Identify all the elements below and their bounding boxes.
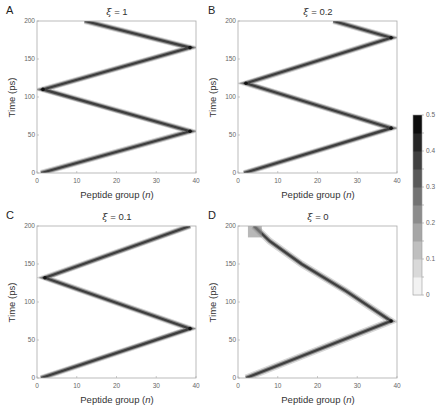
svg-text:30: 30: [153, 382, 161, 389]
svg-text:20: 20: [314, 382, 322, 389]
svg-text:100: 100: [24, 93, 35, 100]
svg-text:10: 10: [274, 177, 282, 184]
svg-text:40: 40: [192, 177, 200, 184]
x-axis-label-b: Peptide group (n): [238, 189, 398, 200]
svg-text:0.3: 0.3: [426, 183, 435, 190]
svg-text:50: 50: [229, 131, 237, 138]
svg-text:0: 0: [426, 291, 430, 298]
y-axis-label-c: Time (ps): [6, 273, 17, 333]
x-axis-label-d: Peptide group (n): [238, 394, 398, 405]
colorbar: 00.10.20.30.40.5: [408, 110, 440, 302]
panel-letter-c: C: [6, 209, 14, 221]
svg-text:0.2: 0.2: [426, 219, 435, 226]
plot-a: 010203040050100150200: [20, 14, 205, 189]
svg-text:50: 50: [28, 131, 36, 138]
svg-text:0: 0: [232, 374, 236, 381]
svg-text:20: 20: [314, 177, 322, 184]
svg-text:30: 30: [354, 177, 362, 184]
svg-text:0: 0: [35, 382, 39, 389]
svg-text:0: 0: [31, 374, 35, 381]
svg-text:100: 100: [24, 298, 35, 305]
svg-text:200: 200: [24, 222, 35, 229]
svg-text:30: 30: [354, 382, 362, 389]
svg-text:200: 200: [225, 222, 236, 229]
svg-text:0: 0: [35, 177, 39, 184]
svg-text:0.5: 0.5: [426, 111, 435, 118]
svg-text:50: 50: [229, 336, 237, 343]
svg-text:10: 10: [73, 177, 81, 184]
plot-b: 010203040050100150200: [221, 14, 406, 189]
y-axis-label-a: Time (ps): [6, 68, 17, 128]
svg-text:50: 50: [28, 336, 36, 343]
svg-text:150: 150: [24, 55, 35, 62]
svg-text:10: 10: [73, 382, 81, 389]
svg-text:100: 100: [225, 298, 236, 305]
svg-text:100: 100: [225, 93, 236, 100]
svg-text:40: 40: [393, 382, 401, 389]
svg-text:0: 0: [236, 382, 240, 389]
svg-text:150: 150: [225, 55, 236, 62]
x-axis-label-a: Peptide group (n): [37, 189, 197, 200]
y-axis-label-d: Time (ps): [207, 273, 218, 333]
svg-text:40: 40: [393, 177, 401, 184]
svg-text:30: 30: [153, 177, 161, 184]
svg-text:10: 10: [274, 382, 282, 389]
svg-text:20: 20: [113, 177, 121, 184]
svg-text:0: 0: [31, 169, 35, 176]
plot-d: 010203040050100150200: [221, 219, 406, 394]
plot-c: 010203040050100150200: [20, 219, 205, 394]
svg-text:40: 40: [192, 382, 200, 389]
x-axis-label-c: Peptide group (n): [37, 394, 197, 405]
panel-letter-d: D: [208, 209, 216, 221]
svg-text:20: 20: [113, 382, 121, 389]
svg-text:200: 200: [24, 17, 35, 24]
svg-text:150: 150: [24, 260, 35, 267]
panel-letter-b: B: [208, 4, 215, 16]
svg-text:0.4: 0.4: [426, 147, 435, 154]
y-axis-label-b: Time (ps): [207, 68, 218, 128]
svg-text:0.1: 0.1: [426, 255, 435, 262]
panel-letter-a: A: [6, 4, 13, 16]
svg-text:150: 150: [225, 260, 236, 267]
svg-text:0: 0: [232, 169, 236, 176]
svg-text:0: 0: [236, 177, 240, 184]
svg-text:200: 200: [225, 17, 236, 24]
